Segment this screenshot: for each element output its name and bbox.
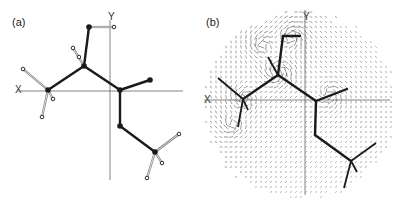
field-arrow [315, 77, 316, 78]
field-arrow [276, 192, 277, 193]
field-arrow [276, 177, 277, 178]
field-arrow [305, 122, 306, 123]
field-arrow [234, 106, 238, 108]
field-arrow [346, 142, 347, 143]
field-arrow [291, 51, 292, 53]
field-arrow [296, 187, 297, 188]
field-arrow [269, 68, 273, 76]
field-arrow [335, 17, 336, 18]
field-arrow [316, 56, 317, 58]
field-arrow [341, 137, 342, 138]
field-arrow [341, 32, 342, 33]
field-arrow [330, 27, 331, 28]
field-arrow [255, 152, 256, 153]
field-arrow [296, 157, 297, 158]
field-arrow [286, 182, 287, 183]
field-arrow [336, 137, 337, 138]
field-arrow [265, 21, 267, 23]
field-arrow [320, 66, 321, 67]
field-arrow [284, 41, 289, 43]
field-arrow [271, 126, 272, 127]
field-arrow [311, 137, 312, 138]
field-arrow [221, 116, 222, 119]
field-arrow [326, 132, 327, 133]
field-arrow [311, 162, 312, 163]
field-arrow [275, 47, 276, 48]
field-arrow [241, 31, 242, 33]
field-arrow [245, 157, 246, 158]
field-arrow [306, 137, 307, 138]
field-arrow [341, 177, 342, 178]
field-arrow [296, 147, 297, 148]
field-arrow [320, 117, 322, 118]
field-arrow [301, 187, 302, 188]
field-arrow [351, 152, 352, 153]
field-arrow [295, 117, 296, 118]
field-arrow [325, 22, 326, 23]
field-arrow [278, 80, 283, 84]
field-arrow [265, 70, 267, 75]
field-arrow [366, 76, 367, 77]
field-arrow [260, 81, 262, 82]
field-arrow [291, 137, 292, 138]
field-arrow [236, 81, 237, 83]
field-arrow [346, 152, 347, 153]
field-arrow [371, 67, 372, 68]
field-arrow [351, 147, 352, 148]
field-arrow [340, 81, 342, 82]
field-arrow [346, 187, 347, 188]
field-arrow [260, 131, 261, 132]
field-arrow [275, 52, 276, 53]
field-arrow [356, 42, 357, 43]
field-arrow [291, 167, 292, 168]
field-arrow [321, 152, 322, 153]
field-arrow [320, 36, 321, 38]
field-arrow [216, 96, 217, 98]
field-arrow [351, 182, 352, 183]
field-arrow [226, 96, 227, 99]
field-arrow [296, 192, 297, 193]
field-arrow [316, 152, 317, 153]
field-arrow [265, 96, 266, 98]
field-arrow [340, 76, 342, 77]
field-arrow [346, 42, 347, 43]
field-arrow [346, 131, 347, 132]
field-arrow [220, 137, 222, 138]
field-arrow [251, 66, 252, 68]
field-arrow [261, 111, 262, 113]
field-arrow [335, 106, 337, 109]
field-arrow [226, 106, 227, 109]
field-arrow [280, 16, 282, 18]
field-arrow [351, 47, 352, 48]
field-arrow [340, 67, 341, 68]
field-arrow [260, 71, 262, 74]
field-arrow [341, 182, 342, 183]
field-arrow [376, 62, 377, 63]
field-arrow [271, 157, 272, 158]
field-arrow [281, 147, 282, 148]
field-arrow [270, 26, 272, 28]
field-arrow [366, 71, 367, 72]
field-arrow [235, 111, 236, 112]
panel-a-structure [17, 20, 183, 180]
field-arrow [330, 121, 331, 122]
field-arrow [291, 162, 292, 163]
field-arrow [265, 92, 267, 93]
field-arrow [351, 116, 352, 118]
field-arrow [271, 162, 272, 163]
field-arrow [288, 41, 295, 43]
field-arrow [356, 37, 357, 38]
field-arrow [261, 116, 262, 118]
field-arrow [215, 121, 216, 123]
field-arrow [371, 57, 372, 58]
field-arrow [301, 192, 302, 193]
field-arrow [305, 92, 306, 93]
field-arrow [311, 172, 312, 173]
field-arrow [240, 86, 243, 89]
field-arrow [325, 41, 326, 42]
field-arrow [356, 32, 357, 33]
field-arrow [356, 147, 357, 148]
field-arrow [240, 152, 242, 153]
hydrogen-bond-inner [23, 69, 48, 90]
field-arrow [260, 152, 261, 153]
